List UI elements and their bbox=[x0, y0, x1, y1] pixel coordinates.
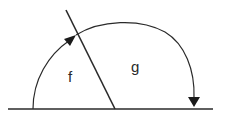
angle-diagram: f g bbox=[0, 0, 227, 119]
diagram-svg: f g bbox=[0, 0, 227, 119]
label-f: f bbox=[68, 68, 73, 85]
label-g: g bbox=[131, 58, 139, 75]
arc-f bbox=[33, 40, 70, 109]
slanted-line bbox=[66, 10, 115, 109]
arrowhead-g-icon bbox=[188, 97, 200, 107]
arrowhead-f-icon bbox=[64, 35, 76, 46]
